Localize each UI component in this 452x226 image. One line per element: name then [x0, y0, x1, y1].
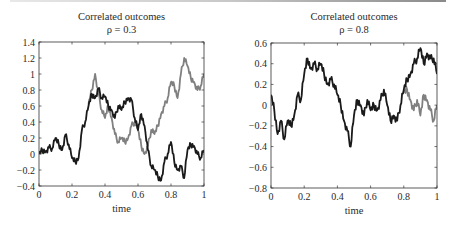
y-tick-label: −0.4	[249, 141, 267, 152]
y-tick-label: 0.2	[255, 79, 268, 90]
y-tick-label: 0	[262, 100, 267, 111]
x-tick-label: 0.2	[298, 191, 311, 202]
y-tick-label: 0.6	[255, 38, 268, 49]
x-tick-label: 0.4	[331, 191, 344, 202]
x-tick-label: 0.6	[364, 191, 377, 202]
x-tick-label: 0	[269, 191, 274, 202]
y-tick-label: −0.6	[249, 162, 267, 173]
y-tick-label: 0.4	[255, 58, 268, 69]
series-line-gray	[404, 87, 437, 122]
plot-area	[271, 48, 437, 146]
chart-rho-0-8: Correlated outcomesρ = 0.800.20.40.60.81…	[0, 0, 452, 226]
chart-title: Correlated outcomes	[310, 11, 397, 22]
x-tick-label: 0.8	[398, 191, 411, 202]
chart-subtitle: ρ = 0.8	[339, 24, 369, 35]
x-tick-label: 1	[435, 191, 440, 202]
series-line-black	[271, 48, 437, 146]
y-tick-label: −0.2	[249, 120, 267, 131]
y-tick-label: −0.8	[249, 183, 267, 194]
x-axis-label: time	[345, 205, 364, 216]
